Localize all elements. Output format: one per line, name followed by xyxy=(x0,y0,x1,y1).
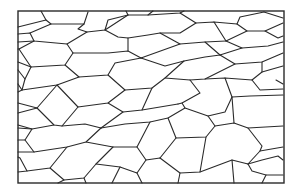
cell-edge xyxy=(22,79,25,90)
cell-edge xyxy=(128,23,196,38)
cell-edges xyxy=(18,11,283,183)
cell-edge xyxy=(160,138,176,158)
cell-network-diagram xyxy=(0,0,296,195)
cell-edge xyxy=(237,23,283,31)
cell-edge xyxy=(262,175,266,183)
cell-edge xyxy=(18,108,37,113)
cell-edge xyxy=(142,104,178,110)
cell-edge xyxy=(205,42,242,55)
cell-edge xyxy=(57,85,125,107)
cell-network-canvas xyxy=(0,0,296,195)
cell-edge xyxy=(182,78,232,116)
cell-edge xyxy=(18,77,79,90)
cell-edge xyxy=(112,167,120,183)
cell-edge xyxy=(37,107,78,126)
cell-edge xyxy=(180,12,264,24)
cell-edge xyxy=(46,12,88,24)
cell-edge xyxy=(18,11,46,27)
cell-edge xyxy=(248,156,283,164)
cell-edge xyxy=(232,160,234,183)
cell-edge xyxy=(30,24,51,33)
cell-edge xyxy=(220,53,283,64)
cell-edge xyxy=(18,157,27,172)
cell-edge xyxy=(67,32,87,44)
cell-edge xyxy=(248,128,262,151)
cell-edge xyxy=(50,147,113,180)
cell-edge xyxy=(19,49,73,67)
cell-edge xyxy=(137,147,160,160)
cell-edge xyxy=(101,108,185,128)
cell-edge xyxy=(276,80,283,84)
cell-edge xyxy=(18,128,32,140)
cell-edge xyxy=(18,85,57,108)
cell-edge xyxy=(248,164,283,175)
cell-edge xyxy=(65,58,141,77)
cell-edge xyxy=(168,116,215,138)
cell-edge xyxy=(78,11,128,32)
cell-edge xyxy=(137,173,142,183)
cell-edge xyxy=(232,95,283,97)
cell-edge xyxy=(86,122,150,147)
cell-edge xyxy=(108,88,152,112)
cell-edge xyxy=(232,97,234,123)
cell-edge xyxy=(178,80,200,104)
cell-edge xyxy=(96,160,146,173)
cell-edge xyxy=(200,147,283,172)
cell-edge xyxy=(178,173,180,183)
cell-edge xyxy=(265,31,283,38)
cell-edge xyxy=(25,128,101,152)
cell-edge xyxy=(18,67,31,79)
cell-edge xyxy=(160,33,226,44)
cell-edge xyxy=(215,123,283,128)
cell-edge xyxy=(264,12,283,18)
cell-edge xyxy=(160,137,206,173)
cell-edge xyxy=(84,178,86,183)
cell-edge xyxy=(141,44,180,58)
cell-edge xyxy=(226,41,283,48)
cell-edge xyxy=(105,15,128,30)
cell-edge xyxy=(214,22,247,41)
diagram-frame xyxy=(18,11,284,183)
cell-edge xyxy=(108,61,184,90)
cell-edge xyxy=(105,30,128,51)
